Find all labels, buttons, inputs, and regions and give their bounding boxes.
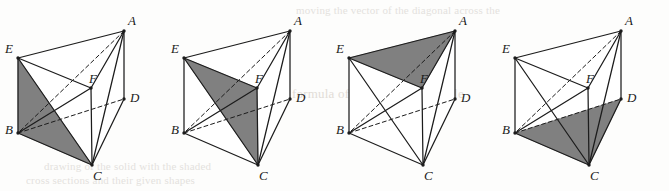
vertex-label-A: A [624,13,633,28]
vertex-label-D: D [129,90,140,105]
vertex-label-E: E [501,41,510,56]
vertex-point-B [347,131,350,134]
vertex-label-B: B [336,122,344,137]
vertex-point-E [513,56,516,59]
vertex-label-D: D [460,90,471,105]
vertex-label-A: A [293,13,302,28]
vertex-label-D: D [626,90,637,105]
prism-figure-2: AEFBCD [166,0,334,191]
vertex-point-A [122,29,125,32]
prism-figure-3: AEFBCD [331,0,499,191]
vertex-point-C [256,163,259,166]
vertex-label-E: E [335,41,344,56]
prism-figure-1: AEFBCD [0,0,168,191]
vertex-label-B: B [5,122,13,137]
vertex-point-E [182,56,185,59]
vertex-point-D [619,97,622,100]
vertex-label-A: A [127,13,136,28]
vertex-point-C [587,163,590,166]
prism-drawing: AEFBCD [0,0,168,191]
vertex-label-F: F [254,71,264,86]
vertex-point-F [89,86,92,89]
vertex-label-C: C [259,168,268,183]
vertex-point-F [420,86,423,89]
vertex-label-C: C [590,168,599,183]
vertex-label-C: C [424,168,433,183]
vertex-label-C: C [93,168,102,183]
vertex-point-E [347,56,350,59]
prism-figure-4: AEFBCD [497,0,665,191]
vertex-point-B [182,131,185,134]
vertex-point-C [90,163,93,166]
vertex-point-B [513,131,516,134]
vertex-point-C [421,163,424,166]
vertex-label-B: B [171,122,179,137]
vertex-point-F [255,86,258,89]
vertex-label-E: E [170,41,179,56]
vertex-label-A: A [458,13,467,28]
prism-drawing: AEFBCD [166,0,334,191]
vertex-label-F: F [88,71,98,86]
prism-drawing: AEFBCD [497,0,665,191]
vertex-label-F: F [419,71,429,86]
vertex-point-A [453,29,456,32]
vertex-label-F: F [585,71,595,86]
prism-drawing: AEFBCD [331,0,499,191]
vertex-label-B: B [502,122,510,137]
vertex-label-D: D [295,90,306,105]
vertex-point-D [288,97,291,100]
vertex-point-D [453,97,456,100]
vertex-point-E [16,56,19,59]
vertex-label-E: E [4,41,13,56]
figure-sheet: moving the vector of the diagonal across… [0,0,669,191]
vertex-point-F [586,86,589,89]
vertex-point-D [122,97,125,100]
vertex-point-A [288,29,291,32]
vertex-point-A [619,29,622,32]
vertex-point-B [16,131,19,134]
